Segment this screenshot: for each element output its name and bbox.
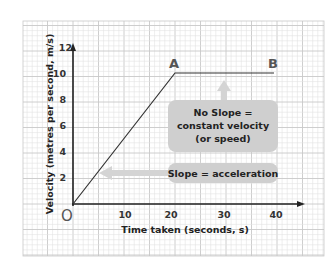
svg-text:constant velocity: constant velocity xyxy=(177,120,270,131)
y-tick-labels: 2 4 6 8 10 12 xyxy=(53,42,72,183)
svg-text:4: 4 xyxy=(59,146,66,157)
svg-text:Slope = acceleration: Slope = acceleration xyxy=(168,168,279,179)
no-slope-annotation: No Slope = constant velocity (or speed) xyxy=(168,100,278,152)
svg-text:(or speed): (or speed) xyxy=(195,133,250,144)
svg-text:12: 12 xyxy=(59,42,72,53)
svg-text:30: 30 xyxy=(217,209,231,220)
y-axis-label: Velocity (metres per second, m/s) xyxy=(44,34,55,215)
svg-text:40: 40 xyxy=(269,209,283,220)
svg-text:20: 20 xyxy=(164,209,178,220)
slope-annotation: Slope = acceleration xyxy=(168,163,279,183)
x-axis-arrow-icon xyxy=(297,201,305,207)
svg-text:No Slope =: No Slope = xyxy=(194,107,253,118)
point-b-label: B xyxy=(268,56,278,71)
svg-text:6: 6 xyxy=(59,120,66,131)
point-a-label: A xyxy=(169,56,179,71)
velocity-time-graph: 2 4 6 8 10 12 10 20 30 40 O Time taken (… xyxy=(0,0,336,269)
x-axis-label: Time taken (seconds, s) xyxy=(121,224,249,235)
origin-label: O xyxy=(61,207,73,225)
svg-text:10: 10 xyxy=(118,209,132,220)
svg-text:2: 2 xyxy=(59,172,66,183)
svg-text:8: 8 xyxy=(59,94,66,105)
